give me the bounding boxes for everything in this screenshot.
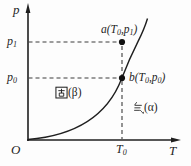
point-b-label-part3: )	[162, 71, 166, 83]
x-axis-arrow-icon	[171, 138, 181, 143]
tick-T0: T0	[116, 143, 127, 157]
tick-T0-base: T	[116, 142, 123, 156]
phase-diagram-figure: p T O p1 p0 T0 a(T0,p1) b(T0,p0) (β) (α)	[0, 0, 191, 166]
tick-p0: p0	[7, 71, 17, 85]
tick-p1: p1	[7, 35, 17, 49]
point-a-label-part2: ,p	[121, 23, 130, 35]
point-b-label-part2: ,p	[149, 71, 158, 83]
region-gas-suffix: (α)	[144, 102, 158, 114]
x-axis-label: T	[169, 144, 176, 157]
point-a-dot	[119, 39, 125, 45]
point-a-label-part3: )	[134, 23, 138, 35]
y-axis-arrow-icon	[26, 3, 31, 13]
hanzi-solid-icon	[55, 86, 68, 99]
point-b-dot	[119, 75, 125, 81]
hanzi-gas-icon	[132, 101, 144, 114]
origin-label: O	[11, 143, 20, 156]
point-b-label: b(T0,p0)	[129, 72, 165, 85]
tick-p0-sub: 0	[13, 76, 17, 85]
tick-p1-sub: 1	[13, 40, 17, 49]
tick-T0-sub: 0	[123, 148, 127, 157]
point-b-label-part1: b(T	[129, 71, 145, 83]
region-solid-label: (β)	[55, 86, 82, 99]
region-solid-suffix: (β)	[68, 87, 82, 99]
point-a-label-part1: a(T	[101, 23, 117, 35]
region-gas-label: (α)	[132, 101, 158, 114]
point-a-label: a(T0,p1)	[101, 24, 137, 37]
y-axis-label: p	[13, 3, 20, 16]
